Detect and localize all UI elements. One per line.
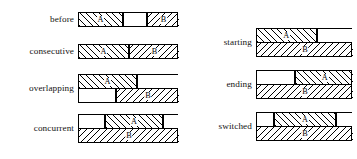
interval-letter-a: A (130, 118, 138, 126)
interval-track: AB (78, 44, 178, 59)
interval-block-b: B (257, 127, 353, 140)
relation-diagram-overlapping: AB (78, 74, 178, 103)
interval-block-a: A (79, 13, 123, 26)
relation-row-before: beforeAB (0, 12, 180, 27)
interval-track: B (256, 126, 352, 141)
interval-letter-b: B (301, 46, 308, 54)
interval-letter-a: A (100, 48, 108, 56)
interval-block-b: B (79, 129, 179, 142)
relation-row-overlapping: overlappingAB (0, 74, 180, 103)
interval-block-b: B (147, 13, 179, 26)
relation-row-ending: endingAB (180, 70, 357, 99)
interval-track: A (256, 28, 352, 43)
relation-label-starting: starting (180, 37, 252, 47)
empty-block (317, 29, 353, 42)
interval-track: B (256, 84, 352, 99)
relation-label-ending: ending (180, 79, 252, 89)
empty-block (163, 115, 179, 128)
interval-block-b: B (129, 45, 179, 58)
empty-block (257, 71, 295, 84)
relation-diagram-concurrent: AB (78, 114, 178, 143)
interval-block-b: B (257, 85, 353, 98)
relation-label-overlapping: overlapping (0, 83, 74, 93)
relation-diagram-starting: AB (256, 28, 352, 57)
interval-track: AB (78, 12, 178, 27)
empty-block (336, 113, 353, 126)
interval-letter-a: A (321, 74, 329, 82)
interval-letter-b: B (151, 48, 158, 56)
interval-block-a: A (274, 113, 335, 126)
interval-track: B (256, 42, 352, 57)
interval-track: B (78, 128, 178, 143)
interval-block-a: A (79, 75, 137, 88)
relation-row-concurrent: concurrentAB (0, 114, 180, 143)
relation-row-consecutive: consecutiveAB (0, 44, 180, 59)
interval-letter-a: A (301, 116, 309, 124)
interval-block-b: B (257, 43, 353, 56)
empty-block (79, 115, 105, 128)
relation-diagram-before: AB (78, 12, 178, 27)
interval-letter-b: B (301, 88, 308, 96)
relation-diagram-ending: AB (256, 70, 352, 99)
interval-letter-a: A (282, 32, 290, 40)
empty-block (257, 113, 274, 126)
interval-letter-a: A (104, 78, 112, 86)
relation-row-starting: startingAB (180, 28, 357, 57)
interval-track: A (78, 114, 178, 129)
interval-block-a: A (79, 45, 129, 58)
interval-block-a: A (105, 115, 163, 128)
interval-track: A (256, 112, 352, 127)
relation-label-consecutive: consecutive (0, 46, 74, 56)
relation-label-switched: switched (180, 121, 252, 131)
empty-block (123, 13, 147, 26)
interval-track: A (256, 70, 352, 85)
empty-block (79, 89, 116, 102)
interval-block-a: A (257, 29, 317, 42)
relation-diagram-consecutive: AB (78, 44, 178, 59)
interval-letter-b: B (125, 132, 132, 140)
interval-letter-b: B (160, 16, 167, 24)
interval-letter-b: B (301, 130, 308, 138)
interval-letter-b: B (144, 92, 151, 100)
interval-block-b: B (116, 89, 179, 102)
relation-diagram-switched: AB (256, 112, 352, 141)
relation-row-switched: switchedAB (180, 112, 357, 141)
empty-block (137, 75, 179, 88)
interval-relations-figure: beforeABconsecutiveABoverlappingABconcur… (0, 0, 357, 159)
interval-track: B (78, 88, 178, 103)
relation-label-before: before (0, 14, 74, 24)
interval-track: A (78, 74, 178, 89)
interval-letter-a: A (97, 16, 105, 24)
interval-block-a: A (295, 71, 353, 84)
relation-label-concurrent: concurrent (0, 123, 74, 133)
